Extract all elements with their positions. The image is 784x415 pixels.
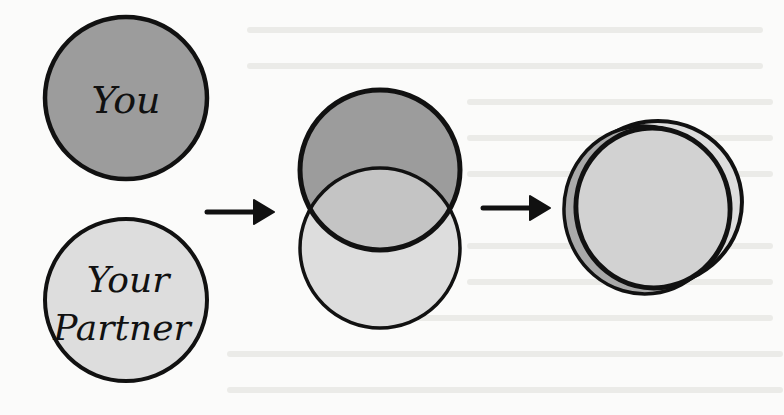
relationship-diagram: You Your Partner <box>0 0 784 415</box>
stage-overlapping <box>300 90 460 328</box>
partner-label-line1: Your <box>87 259 171 300</box>
stage-separate: You Your Partner <box>45 17 207 381</box>
stage-merged <box>556 110 753 302</box>
you-label: You <box>91 78 160 122</box>
partner-circle: Your Partner <box>45 219 207 381</box>
arrow-right-icon <box>207 200 274 224</box>
you-circle: You <box>45 17 207 179</box>
diagram-canvas: You Your Partner <box>0 0 784 415</box>
partner-label-line2: Partner <box>52 307 192 348</box>
arrow-right-icon <box>483 196 550 220</box>
